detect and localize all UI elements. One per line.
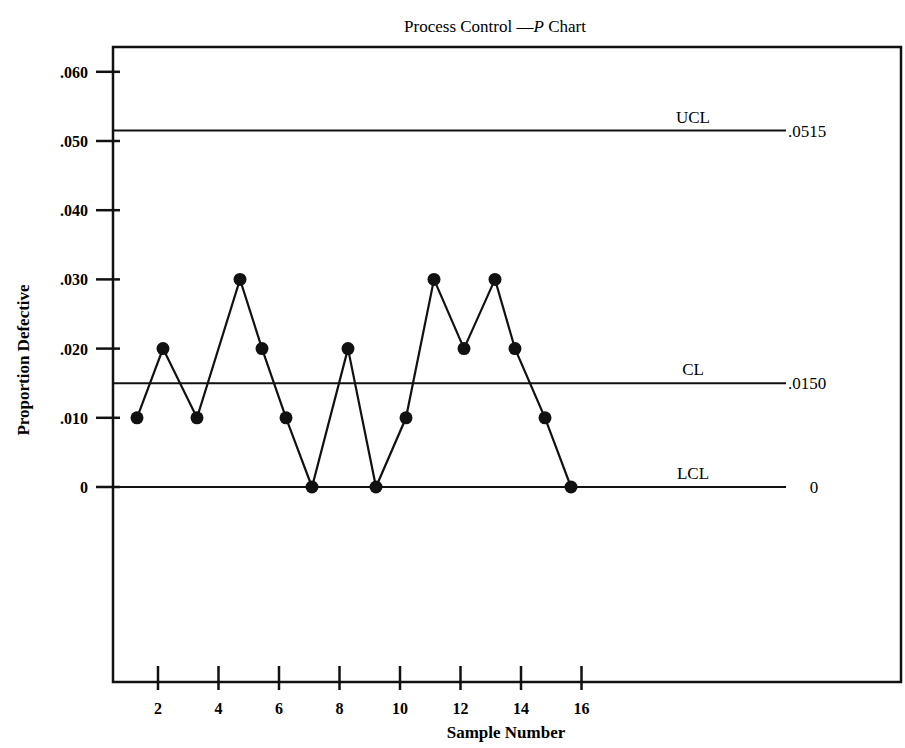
data-point-marker <box>428 273 441 286</box>
data-point-marker <box>131 411 144 424</box>
x-tick-label: 10 <box>392 700 408 717</box>
control-limit-lines: UCL.0515CL.0150LCL0 <box>113 108 826 497</box>
x-tick-label: 12 <box>453 700 469 717</box>
p-chart: Process Control —P Chart 0.010.020.030.0… <box>0 0 905 748</box>
cl-label: CL <box>682 360 704 379</box>
y-axis-title: Proportion Defective <box>14 284 33 436</box>
y-tick-label: 0 <box>80 479 88 496</box>
y-tick-label: .030 <box>60 271 88 288</box>
ucl-value: .0515 <box>788 122 826 141</box>
data-point-marker <box>509 342 522 355</box>
lcl-label: LCL <box>677 464 709 483</box>
data-point-marker <box>370 481 383 494</box>
y-tick-label: .020 <box>60 341 88 358</box>
x-tick-label: 6 <box>275 700 283 717</box>
data-point-marker <box>191 411 204 424</box>
x-tick-label: 8 <box>336 700 344 717</box>
data-point-marker <box>280 411 293 424</box>
plot-frame <box>113 47 901 682</box>
x-tick-label: 4 <box>215 700 223 717</box>
cl-value: .0150 <box>788 374 826 393</box>
data-point-marker <box>489 273 502 286</box>
data-point-marker <box>234 273 247 286</box>
data-point-marker <box>256 342 269 355</box>
y-tick-label: .050 <box>60 133 88 150</box>
ucl-label: UCL <box>676 108 710 127</box>
x-tick-label: 2 <box>154 700 162 717</box>
y-tick-label: .010 <box>60 410 88 427</box>
x-axis-title: Sample Number <box>447 723 566 742</box>
data-point-marker <box>400 411 413 424</box>
data-point-marker <box>458 342 471 355</box>
x-axis: 246810121416 <box>154 666 590 717</box>
y-axis: 0.010.020.030.040.050.060 <box>60 64 120 496</box>
data-point-marker <box>539 411 552 424</box>
x-tick-label: 16 <box>574 700 590 717</box>
lcl-value: 0 <box>810 478 819 497</box>
y-tick-label: .060 <box>60 64 88 81</box>
x-tick-label: 14 <box>513 700 529 717</box>
data-point-marker <box>157 342 170 355</box>
data-point-marker <box>342 342 355 355</box>
data-point-marker <box>565 481 578 494</box>
data-point-marker <box>306 481 319 494</box>
y-tick-label: .040 <box>60 202 88 219</box>
chart-title: Process Control —P Chart <box>404 17 586 36</box>
